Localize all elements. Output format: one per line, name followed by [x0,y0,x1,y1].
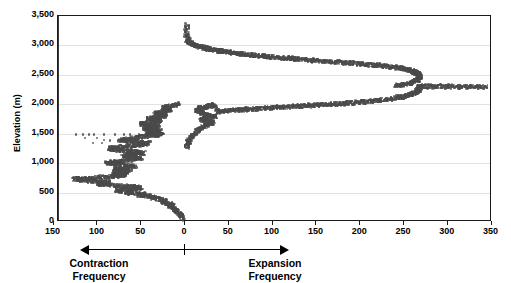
scatter-point [130,166,132,168]
y-axis-tick-500: 500 [8,187,54,196]
scatter-point [140,153,142,155]
scatter-point [119,150,121,152]
y-axis-tick-3000: 3,000 [8,39,54,48]
x-axis-tick-6: 150 [295,227,335,236]
right-arrow-icon [280,245,289,255]
scatter-point [89,181,91,183]
contraction-label-line1: Contraction [14,257,184,270]
x-axis-tickmark-9 [447,221,448,225]
scatter-point [123,133,125,135]
scatter-point [461,86,463,88]
x-axis-tickmark-6 [315,221,316,225]
x-axis-tick-10: 350 [471,227,511,236]
scatter-point [125,138,127,140]
scatter-point [72,177,74,179]
scatter-point [436,87,439,90]
scatter-point [144,150,146,152]
scatter-point [131,192,133,194]
y-axis-tick-2500: 2,500 [8,69,54,78]
scatter-point [133,184,135,186]
expansion-label-line1: Expansion [190,257,360,270]
y-axis-tick-2000: 2,000 [8,98,54,107]
scatter-point [93,133,95,135]
scatter-point [88,133,90,135]
x-axis-tick-labels: 15010050050100150200250300350 [0,221,511,241]
scatter-point [103,139,105,141]
x-axis-tick-9: 300 [427,227,467,236]
scatter-point [406,85,408,87]
scatter-point [88,177,90,179]
x-axis-tick-1: 100 [76,227,116,236]
scatter-point [204,113,207,116]
scatter-point [158,199,160,201]
x-axis-tickmark-1 [96,221,97,225]
scatter-point [114,133,116,135]
zero-reference-line [58,16,59,220]
scatter-point [377,66,379,68]
contraction-label-line2: Frequency [14,270,184,283]
y-axis-tick-1500: 1,500 [8,128,54,137]
direction-axis: Contraction Frequency Expansion Frequenc… [0,243,511,283]
scatter-point [129,133,131,135]
x-axis-tick-8: 250 [383,227,423,236]
x-axis-tickmark-4 [228,221,229,225]
scatter-point [109,139,111,141]
y-axis-tick-3500: 3,500 [8,10,54,19]
scatter-point [406,82,408,84]
x-axis-tick-4: 50 [208,227,248,236]
x-axis-tickmark-10 [491,221,492,225]
gridline-3000 [58,45,490,46]
scatter-point [155,114,157,116]
x-axis-tick-3: 0 [164,227,204,236]
x-axis-tickmark-8 [403,221,404,225]
gridline-500 [58,193,490,194]
scatter-point [127,185,129,187]
scatter-point [143,153,146,156]
scatter-point [382,67,384,69]
elevation-frequency-scatter-figure: Elevation (m) 05001,0001,5002,0002,5003,… [0,0,511,283]
x-axis-tickmark-0 [53,221,54,225]
scatter-point [380,97,383,100]
x-axis-tickmark-5 [272,221,273,225]
x-axis-tickmark-7 [359,221,360,225]
scatter-point [92,142,94,144]
scatter-point [100,177,102,179]
scatter-point [394,85,396,87]
x-axis-tick-7: 200 [339,227,379,236]
scatter-point [110,183,112,185]
scatter-point [147,197,149,199]
scatter-point [124,171,127,174]
x-axis-tick-2: 50 [120,227,160,236]
x-axis-tick-5: 100 [252,227,292,236]
x-axis-tickmark-2 [140,221,141,225]
scatter-point [96,137,98,139]
scatter-point [278,58,280,60]
expansion-label-line2: Frequency [190,270,360,283]
scatter-point [283,58,285,60]
x-axis-tick-0: 150 [33,227,73,236]
scatter-point [131,166,133,168]
scatter-point [133,151,135,153]
x-axis-tickmark-3 [184,221,185,225]
scatter-point [101,142,103,144]
scatter-point [177,101,180,104]
scatter-point [367,102,369,104]
scatter-point [371,101,374,104]
scatter-point [121,185,123,187]
plot-area [57,15,491,221]
direction-axis-center-tick [184,244,185,255]
expansion-label: Expansion Frequency [190,257,360,282]
scatter-point [84,137,86,139]
scatter-point [135,166,138,169]
scatter-point [118,165,120,167]
scatter-point [118,185,120,187]
y-axis-tick-1000: 1,000 [8,157,54,166]
left-arrow-icon [80,245,89,255]
scatter-point [173,204,175,206]
scatter-point [206,122,208,124]
scatter-point [197,131,199,133]
contraction-label: Contraction Frequency [14,257,184,282]
gridline-2500 [58,75,490,76]
